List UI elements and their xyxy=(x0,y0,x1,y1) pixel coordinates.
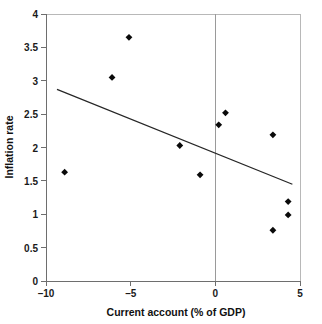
trend-line xyxy=(57,89,292,184)
y-tick-label-2-5: 2.5 xyxy=(24,109,38,120)
data-point xyxy=(222,109,229,116)
data-point xyxy=(270,227,277,234)
y-tick-label-1: 1 xyxy=(32,209,38,220)
data-point xyxy=(109,74,116,81)
data-point xyxy=(126,34,133,41)
data-point xyxy=(285,212,292,219)
data-point xyxy=(61,169,68,176)
y-tick-label-3: 3 xyxy=(32,76,38,87)
data-point xyxy=(176,142,183,149)
y-tick-label-0: 0 xyxy=(32,276,38,287)
y-tick-label-0-5: 0.5 xyxy=(24,243,38,254)
y-axis-title: Inflation rate xyxy=(3,115,15,178)
x-axis-title: Current account (% of GDP) xyxy=(107,306,246,318)
data-point xyxy=(215,121,222,128)
x-tick-label-neg5: –5 xyxy=(125,288,137,299)
data-point xyxy=(270,131,277,138)
data-point xyxy=(285,198,292,205)
x-tick-label-0: 0 xyxy=(213,288,219,299)
data-point xyxy=(197,171,204,178)
x-tick-label-neg10: –10 xyxy=(38,288,55,299)
y-tick-label-3-5: 3.5 xyxy=(24,42,38,53)
data-point-group xyxy=(61,34,291,234)
plot-area: 4 3.5 3 2.5 2 1.5 1 0.5 0 –10 –5 0 5 Cur… xyxy=(0,0,322,324)
scatter-chart: 4 3.5 3 2.5 2 1.5 1 0.5 0 –10 –5 0 5 Cur… xyxy=(0,0,322,324)
x-tick-label-5: 5 xyxy=(297,288,303,299)
y-tick-label-4: 4 xyxy=(32,9,38,20)
y-tick-label-1-5: 1.5 xyxy=(24,176,38,187)
y-tick-label-2: 2 xyxy=(32,143,38,154)
